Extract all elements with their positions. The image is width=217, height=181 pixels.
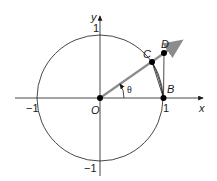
label-D: D: [161, 38, 169, 50]
label-theta: θ: [127, 84, 132, 95]
point-D: [161, 50, 167, 56]
tick-y-neg1: −1: [84, 162, 97, 174]
point-B: [161, 95, 167, 101]
label-B: B: [167, 83, 174, 95]
tick-y-pos1: 1: [93, 22, 99, 34]
tick-x-pos1: 1: [163, 102, 169, 114]
label-C: C: [143, 48, 151, 60]
segment-BD: [164, 53, 165, 98]
angle-arc: [120, 84, 124, 98]
tick-x-neg1: −1: [26, 102, 39, 114]
point-O: [97, 95, 103, 101]
chord-CB: [152, 62, 164, 98]
label-O: O: [91, 104, 100, 116]
unit-circle-diagram: O B C D θ x y −1 1 1 −1: [0, 0, 217, 181]
x-axis-label: x: [198, 102, 205, 114]
